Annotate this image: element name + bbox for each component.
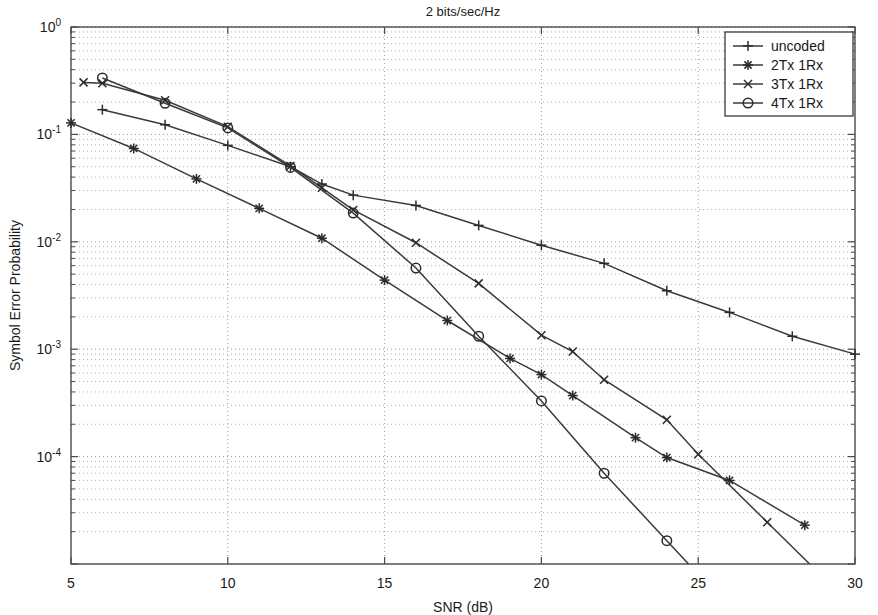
series-line — [71, 123, 805, 525]
x-tick-label: 25 — [690, 575, 706, 591]
x-axis-label: SNR (dB) — [433, 599, 493, 615]
series-marker — [568, 391, 578, 401]
series-marker — [66, 118, 76, 128]
chart-legend: uncoded2Tx 1Rx3Tx 1Rx4Tx 1Rx — [725, 32, 853, 116]
legend-marker-asterisk-icon — [743, 60, 753, 70]
y-tick-label: 100 — [40, 17, 62, 35]
series-marker — [411, 200, 421, 210]
y-tick-label: 10-4 — [37, 447, 62, 465]
series-marker — [380, 275, 390, 285]
series-marker — [191, 174, 201, 184]
x-tick-label: 5 — [67, 575, 75, 591]
series-marker — [254, 203, 264, 213]
y-axis-label: Symbol Error Probability — [7, 220, 23, 371]
series-marker — [663, 416, 671, 424]
series-marker — [97, 105, 107, 115]
x-tick-label: 20 — [534, 575, 550, 591]
x-tick-label: 10 — [220, 575, 236, 591]
series-4tx-1rx — [98, 73, 689, 564]
x-tick-label: 30 — [847, 575, 863, 591]
series-marker — [600, 376, 608, 384]
series-line — [102, 110, 855, 354]
series-marker — [505, 353, 515, 363]
legend-label: uncoded — [771, 38, 825, 54]
chart-canvas: 5101520253010010-110-210-310-4 2 bits/se… — [0, 0, 878, 615]
series-marker — [599, 258, 609, 268]
series-marker — [160, 120, 170, 130]
y-tick-label: 10-3 — [37, 339, 62, 357]
series-marker — [537, 331, 545, 339]
series-marker — [348, 190, 358, 200]
y-tick-label: 10-2 — [37, 232, 62, 250]
labels-layer: 2 bits/sec/HzSNR (dB)Symbol Error Probab… — [7, 4, 500, 615]
series-marker — [317, 233, 327, 243]
chart-figure: 5101520253010010-110-210-310-4 2 bits/se… — [0, 0, 878, 615]
series-marker — [725, 475, 735, 485]
y-tick-label: 10-1 — [37, 124, 62, 142]
chart-title: 2 bits/sec/Hz — [426, 4, 500, 19]
legend-label: 4Tx 1Rx — [771, 95, 823, 111]
series-marker — [800, 520, 810, 530]
series-marker — [474, 220, 484, 230]
series-marker — [725, 307, 735, 317]
series-marker — [442, 316, 452, 326]
series-marker — [536, 240, 546, 250]
series-marker — [630, 433, 640, 443]
series-marker — [129, 143, 139, 153]
series-marker — [662, 453, 672, 463]
legend-label: 3Tx 1Rx — [771, 76, 823, 92]
series-marker — [569, 348, 577, 356]
series-marker — [475, 279, 483, 287]
series-marker — [763, 518, 771, 526]
series-marker — [662, 286, 672, 296]
x-tick-label: 15 — [377, 575, 393, 591]
series-marker — [787, 331, 797, 341]
series-marker — [850, 349, 860, 359]
series-layer — [66, 73, 860, 564]
series-marker — [412, 239, 420, 247]
legend-label: 2Tx 1Rx — [771, 57, 823, 73]
series-uncoded — [97, 105, 860, 359]
series-marker — [536, 370, 546, 380]
series-marker — [223, 140, 233, 150]
